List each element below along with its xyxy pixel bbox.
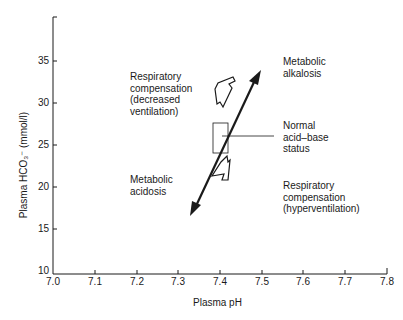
axes [53,17,387,274]
x-tick-7.3: 7.3 [163,276,193,287]
x-tick-7.7: 7.7 [330,276,360,287]
y-tick-15: 15 [27,223,49,234]
y-tick-20: 20 [27,181,49,192]
y-tick-25: 25 [27,139,49,150]
arrowhead-down-icon [190,201,201,216]
label-resp-comp-hyper: Respiratory compensation (hyperventilati… [283,180,360,215]
label-normal-status: Normal acid–base status [283,120,329,155]
diagram-canvas [0,0,403,320]
label-resp-comp-decreased: Respiratory compensation (decreased vent… [130,71,192,117]
x-tick-7.8: 7.8 [372,276,402,287]
x-tick-7.1: 7.1 [80,276,110,287]
y-tick-10: 10 [27,265,49,276]
x-tick-7.5: 7.5 [247,276,277,287]
metabolic-double-arrow [190,70,261,216]
y-axis-label: Plasma HCO₃⁻ (mmol/l) [18,112,29,218]
x-tick-7.0: 7.0 [38,276,68,287]
x-tick-7.6: 7.6 [288,276,318,287]
x-tick-7.4: 7.4 [205,276,235,287]
y-tick-35: 35 [27,55,49,66]
x-axis-label: Plasma pH [193,297,242,308]
x-tick-7.2: 7.2 [122,276,152,287]
resp-comp-decreased-arrow-icon [215,77,235,107]
normal-range-box [213,123,228,153]
label-metabolic-acidosis: Metabolic acidosis [130,174,173,197]
label-metabolic-alkalosis: Metabolic alkalosis [283,56,326,79]
arrowhead-up-icon [249,70,261,85]
y-tick-30: 30 [27,97,49,108]
